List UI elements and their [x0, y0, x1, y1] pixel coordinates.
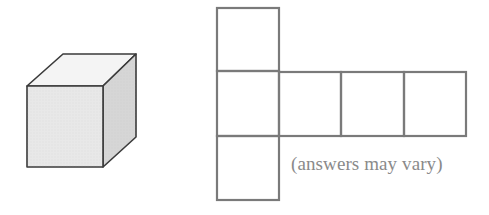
cube-front-face-texture [27, 86, 103, 167]
cube [27, 54, 136, 167]
cube-and-net-figure [0, 0, 489, 215]
net-face-middle-4 [404, 72, 466, 136]
net-face-bottom [217, 136, 279, 200]
net-face-middle-3 [341, 72, 404, 136]
net-face-top [217, 8, 279, 71]
net-caption: (answers may vary) [291, 153, 443, 175]
net-face-middle-2 [279, 72, 341, 136]
net-face-middle-left [217, 71, 279, 136]
